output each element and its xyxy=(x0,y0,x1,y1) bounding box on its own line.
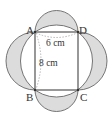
width-dimension-arc xyxy=(36,33,77,38)
label-d: D xyxy=(79,24,87,36)
vertex-c xyxy=(77,89,79,91)
label-a: A xyxy=(26,24,34,36)
lune-diagram: A D B C 6 cm 8 cm xyxy=(0,0,109,124)
vertex-b xyxy=(34,89,36,91)
vertex-a xyxy=(34,31,36,33)
width-label: 6 cm xyxy=(46,38,65,48)
height-label: 8 cm xyxy=(39,58,58,68)
label-b: B xyxy=(26,91,33,103)
label-c: C xyxy=(80,91,87,103)
